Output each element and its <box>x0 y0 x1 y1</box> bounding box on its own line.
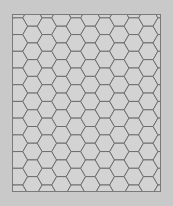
hex-board <box>12 14 161 192</box>
hex-grid <box>13 15 161 192</box>
